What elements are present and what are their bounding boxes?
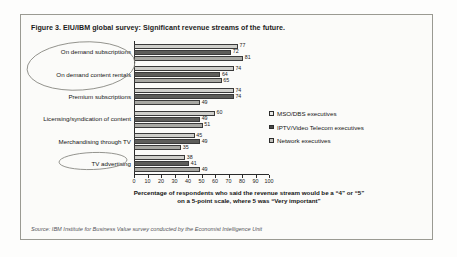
bar [134, 161, 189, 166]
bar-value-label: 65 [223, 77, 229, 83]
x-axis-tick-label: 90 [253, 178, 259, 184]
category-label: Premium subscriptions [68, 93, 131, 100]
x-axis-caption-line2: on a 5-point scale, where 5 was “Very im… [99, 197, 399, 205]
bar [134, 88, 234, 93]
category-label: On demand subscriptions [61, 48, 131, 55]
bar-value-label: 35 [183, 144, 189, 150]
bar-group: 747449 [134, 88, 269, 106]
x-axis-caption: Percentage of respondents who said the r… [99, 189, 399, 206]
plot-area: 777281746465747449604951454935384149 [134, 41, 269, 175]
legend-item[interactable]: MSO/DBS executives [269, 110, 419, 117]
legend-item[interactable]: Network executives [269, 137, 419, 144]
bar-row: 51 [134, 123, 269, 128]
bar-value-label: 72 [233, 48, 239, 54]
bar-row: 77 [134, 44, 269, 49]
bar-value-label: 74 [235, 93, 241, 99]
bar-value-label: 49 [202, 99, 208, 105]
bar-row: 65 [134, 78, 269, 83]
bar-group: 777281 [134, 44, 269, 62]
x-axis-tick-label: 80 [239, 178, 245, 184]
bar-value-label: 51 [204, 121, 210, 127]
bar [134, 123, 203, 128]
x-axis-tick-label: 100 [265, 178, 274, 184]
category-label: Licensing/syndication of content [43, 115, 131, 122]
bar [134, 94, 234, 99]
bar-row: 74 [134, 88, 269, 93]
x-axis-tick-label: 40 [185, 178, 191, 184]
bar [134, 167, 200, 172]
x-axis-tick-label: 30 [172, 178, 178, 184]
category-label: On demand content rentals [56, 71, 131, 78]
bar-row: 35 [134, 145, 269, 150]
scanned-page: Figure 3. EIU/IBM global survey: Signifi… [0, 0, 457, 257]
bar-row: 74 [134, 66, 269, 71]
x-axis-tick-label: 50 [199, 178, 205, 184]
bar-value-label: 74 [235, 65, 241, 71]
x-axis-tick-label: 0 [133, 178, 136, 184]
bar-row: 49 [134, 100, 269, 105]
legend-label: IPTV/Video Telecom executives [277, 124, 364, 131]
x-axis: 0102030405060708090100 [134, 175, 269, 187]
bar-group: 746465 [134, 66, 269, 84]
bar [134, 145, 181, 150]
bar-row: 64 [134, 72, 269, 77]
category-label: Merchandising through TV [59, 138, 131, 145]
x-axis-tick-label: 70 [226, 178, 232, 184]
bar-row: 81 [134, 56, 269, 61]
bar [134, 133, 195, 138]
legend-label: Network executives [277, 137, 331, 144]
bar-group: 384149 [134, 155, 269, 173]
bar [134, 66, 234, 71]
bar-value-label: 49 [202, 138, 208, 144]
bar-row: 49 [134, 117, 269, 122]
figure-title: Figure 3. EIU/IBM global survey: Signifi… [31, 24, 285, 32]
bar-value-label: 81 [245, 54, 251, 60]
bar [134, 100, 200, 105]
bar [134, 44, 238, 49]
legend-swatch-icon [269, 138, 274, 143]
bar-row: 38 [134, 155, 269, 160]
bar-group: 454935 [134, 133, 269, 151]
x-axis-tick-label: 10 [145, 178, 151, 184]
bar [134, 50, 231, 55]
legend: MSO/DBS executivesIPTV/Video Telecom exe… [269, 110, 419, 151]
x-axis-tick-label: 20 [158, 178, 164, 184]
bar [134, 78, 222, 83]
x-axis-caption-line1: Percentage of respondents who said the r… [99, 189, 399, 197]
bar [134, 56, 243, 61]
x-axis-tick-label: 60 [212, 178, 218, 184]
bar [134, 139, 200, 144]
bar-value-label: 77 [239, 42, 245, 48]
bar [134, 117, 200, 122]
bar-row: 49 [134, 167, 269, 172]
legend-label: MSO/DBS executives [277, 110, 337, 117]
bar-value-label: 60 [217, 109, 223, 115]
bar [134, 72, 220, 77]
bar-value-label: 49 [202, 166, 208, 172]
category-label: TV advertising [91, 160, 131, 167]
legend-swatch-icon [269, 111, 274, 116]
category-axis-labels: On demand subscriptionsOn demand content… [21, 41, 131, 175]
legend-item[interactable]: IPTV/Video Telecom executives [269, 124, 419, 131]
bar-value-label: 41 [191, 160, 197, 166]
bar-group: 604951 [134, 111, 269, 129]
legend-swatch-icon [269, 125, 274, 130]
bar [134, 155, 185, 160]
bar-row: 49 [134, 139, 269, 144]
figure-container: Figure 3. EIU/IBM global survey: Signifi… [20, 14, 433, 240]
source-note: Source: IBM Institute for Business Value… [31, 226, 262, 232]
